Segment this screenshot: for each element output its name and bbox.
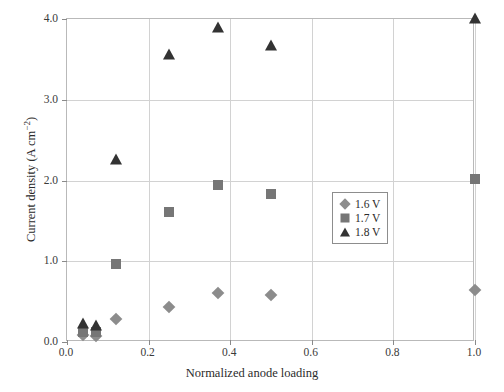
data-point-square xyxy=(266,189,276,199)
gridline-vertical xyxy=(393,19,394,340)
data-point-diamond xyxy=(212,286,225,299)
data-point-triangle xyxy=(90,319,102,330)
y-axis-title-exponent: −2 xyxy=(22,121,32,131)
x-tick-label: 0.4 xyxy=(222,346,236,358)
y-tick-label: 2.0 xyxy=(58,174,72,186)
data-point-triangle xyxy=(265,39,277,50)
square-marker-icon xyxy=(338,212,352,224)
y-axis-title: Current density (A cm−2) xyxy=(18,18,36,341)
legend-item-1-7-v[interactable]: 1.7 V xyxy=(338,211,380,225)
x-axis-title: Normalized anode loading xyxy=(0,366,504,381)
y-tick-label: 1.0 xyxy=(58,254,72,266)
data-point-square xyxy=(111,259,121,269)
data-point-triangle xyxy=(212,21,224,32)
data-point-diamond xyxy=(110,312,123,325)
y-axis-title-tail: ) xyxy=(24,117,38,121)
data-point-triangle xyxy=(77,318,89,329)
data-point-diamond xyxy=(265,289,278,302)
legend-item-1-6-v[interactable]: 1.6 V xyxy=(338,197,380,211)
data-point-triangle xyxy=(469,13,481,24)
data-point-triangle xyxy=(110,154,122,165)
x-tick-label: 1.0 xyxy=(467,346,481,358)
plot-area xyxy=(66,18,474,341)
triangle-marker-icon xyxy=(338,226,352,238)
legend[interactable]: 1.6 V1.7 V1.8 V xyxy=(332,192,388,244)
gridline-horizontal xyxy=(67,181,473,182)
data-point-diamond xyxy=(163,301,176,314)
legend-item-label: 1.8 V xyxy=(355,225,380,239)
legend-item-label: 1.7 V xyxy=(355,211,380,225)
gridline-horizontal xyxy=(67,261,473,262)
gridline-vertical xyxy=(230,19,231,340)
gridline-horizontal xyxy=(67,100,473,101)
data-point-square xyxy=(213,180,223,190)
x-axis-tick xyxy=(230,340,231,345)
legend-item-label: 1.6 V xyxy=(355,197,380,211)
x-tick-label: 0.0 xyxy=(59,346,73,358)
x-axis-tick xyxy=(149,340,150,345)
x-tick-label: 0.2 xyxy=(140,346,154,358)
data-point-square xyxy=(470,174,480,184)
x-tick-label: 0.6 xyxy=(304,346,318,358)
legend-item-1-8-v[interactable]: 1.8 V xyxy=(338,225,380,239)
y-tick-label: 3.0 xyxy=(58,93,72,105)
x-tick-label: 0.8 xyxy=(385,346,399,358)
x-axis-tick xyxy=(475,340,476,345)
chart-page: 0.00.20.40.60.81.0 0.01.02.03.04.0 Norma… xyxy=(0,0,504,392)
data-point-diamond xyxy=(469,284,482,297)
data-point-triangle xyxy=(163,48,175,59)
y-tick-label: 0.0 xyxy=(58,335,72,347)
gridline-vertical xyxy=(312,19,313,340)
gridline-vertical xyxy=(149,19,150,340)
y-tick-label: 4.0 xyxy=(58,12,72,24)
y-axis-title-main: Current density (A cm xyxy=(24,131,38,242)
data-point-square xyxy=(164,207,174,217)
x-axis-tick xyxy=(393,340,394,345)
x-axis-tick xyxy=(312,340,313,345)
diamond-marker-icon xyxy=(338,198,352,210)
